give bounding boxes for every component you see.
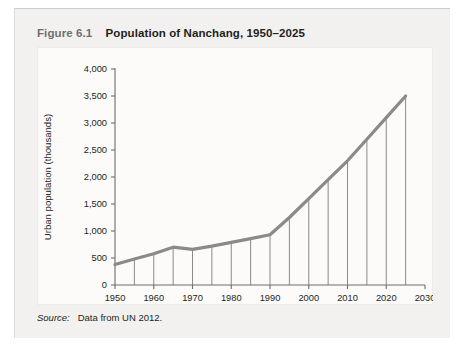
page-title: Figure 6.1 Population of Nanchang, 1950–… <box>37 27 305 39</box>
y-tick-label: 1,000 <box>84 226 107 236</box>
x-axis: 195019601970198019902000201020202030 <box>105 285 433 303</box>
population-series-line <box>115 96 406 264</box>
x-tick-label: 1960 <box>143 293 164 303</box>
y-tick-label: 3,000 <box>84 118 107 128</box>
x-tick-label: 2010 <box>337 293 358 303</box>
chart-plot-area: 05001,0001,5002,0002,5003,0003,5004,000 … <box>37 47 433 305</box>
x-tick-label: 2000 <box>298 293 319 303</box>
x-tick-label: 1990 <box>260 293 281 303</box>
y-tick-label: 2,500 <box>84 145 107 155</box>
figure-card: Figure 6.1 Population of Nanchang, 1950–… <box>14 8 450 338</box>
population-line-chart: 05001,0001,5002,0002,5003,0003,5004,000 … <box>37 47 433 305</box>
figure-number: Figure 6.1 <box>37 27 92 39</box>
y-tick-label: 500 <box>91 253 107 263</box>
population-line <box>115 96 406 264</box>
dropline-group <box>134 96 405 285</box>
y-tick-label: 0 <box>102 280 107 290</box>
y-axis: 05001,0001,5002,0002,5003,0003,5004,000 <box>84 64 115 290</box>
y-axis-title-text: Urban population (thousands) <box>42 114 53 240</box>
x-tick-label: 1980 <box>221 293 242 303</box>
x-tick-label: 2020 <box>376 293 397 303</box>
y-tick-label: 1,500 <box>84 199 107 209</box>
y-tick-label: 2,000 <box>84 172 107 182</box>
figure-title-text: Population of Nanchang, 1950–2025 <box>106 27 306 39</box>
x-tick-label: 2030 <box>415 293 433 303</box>
y-tick-label: 3,500 <box>84 91 107 101</box>
source-note: Source: Data from UN 2012. <box>37 312 162 323</box>
source-label: Source: <box>37 312 70 323</box>
x-tick-label: 1950 <box>105 293 126 303</box>
x-tick-label: 1970 <box>182 293 203 303</box>
y-axis-title: Urban population (thousands) <box>42 114 53 240</box>
y-tick-label: 4,000 <box>84 64 107 74</box>
source-text: Data from UN 2012. <box>78 312 162 323</box>
